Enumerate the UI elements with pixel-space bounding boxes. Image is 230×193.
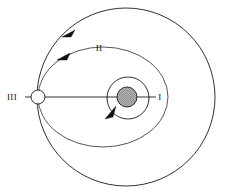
orbital-diagram: III II I (0, 0, 230, 193)
middle-orbit-label-ii: II (96, 43, 103, 53)
inner-orbit-direction-arrow-icon (105, 106, 116, 119)
orbital-diagram-canvas: III II I (0, 0, 230, 193)
outer-orbit-label-iii: III (7, 92, 17, 102)
inner-orbit-label-i: I (158, 92, 161, 102)
central-body-shaded-circle (117, 87, 137, 107)
middle-orbit-direction-arrow-icon (57, 53, 70, 60)
outer-body-open-circle (31, 90, 45, 104)
